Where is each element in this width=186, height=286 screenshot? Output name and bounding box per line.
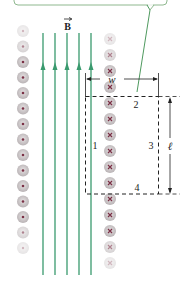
arrow-up-icon	[77, 62, 82, 70]
arrow-up-icon	[65, 62, 70, 70]
arrow-up-icon	[53, 62, 58, 70]
ampere-law-diagram: B	[0, 0, 186, 286]
dot-current-column	[17, 25, 29, 254]
segment-3-label: 3	[149, 140, 154, 151]
length-label: ℓ	[168, 140, 173, 152]
segment-4-label: 4	[135, 182, 140, 193]
width-dimension	[86, 73, 159, 97]
arrow-up-icon	[41, 62, 46, 70]
segment-2-label: 2	[134, 99, 139, 110]
field-arrowheads	[41, 62, 94, 70]
magnetic-field-label: B	[64, 18, 72, 33]
cross-current-column	[104, 33, 116, 269]
svg-text:B: B	[64, 21, 71, 32]
width-label: w	[108, 73, 116, 85]
arrow-up-icon	[89, 62, 94, 70]
segment-1-label: 1	[93, 140, 98, 151]
